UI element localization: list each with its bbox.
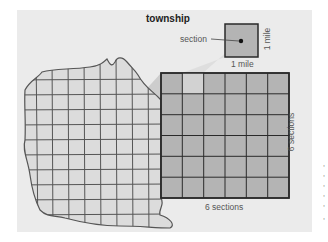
cropped-text-fragment: , [323,170,325,177]
land-map-outline [24,58,172,228]
township-diagram [0,0,328,242]
township-grid [161,73,289,198]
section-width-label: 1 mile [231,59,254,69]
cropped-text-fragment: , [323,190,325,197]
section-label: section [180,34,207,44]
cropped-text-fragment: , [323,213,325,220]
diagram-title: township [146,13,190,24]
cropped-text-fragment: , [323,160,325,167]
section-square [211,24,258,57]
township-width-label: 6 sections [205,202,243,212]
cropped-text-fragment: , [323,180,325,187]
section-height-label: 1 mile [262,28,272,51]
highlighted-section-cell [182,73,203,94]
township-height-label: 6 sections [286,113,296,151]
section-center-dot [239,39,243,43]
cropped-text-fragment: , [323,200,325,207]
